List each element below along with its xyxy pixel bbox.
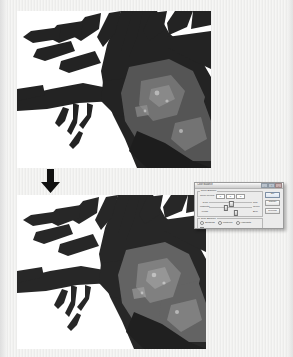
preview-button[interactable]: Preview (265, 208, 280, 214)
cancel-button[interactable]: Cancel (265, 200, 280, 206)
tone-balance-fieldset: Tone Balance Shadows Midtones Highli (197, 218, 263, 229)
color-levels-row: Color Levels: 0 0 0 (200, 194, 260, 199)
dialog-main-panel: Color Balance Color Levels: 0 0 0 Cyan (197, 191, 263, 230)
radio-highlights[interactable]: Highlights (236, 221, 251, 225)
slider-track-yellow-blue (209, 212, 252, 213)
slider-label-yellow: Yellow (200, 211, 208, 213)
radio-shadows[interactable]: Shadows (200, 221, 215, 225)
tone-balance-options: Shadows Midtones Highlights (200, 221, 260, 225)
slider-label-red: Red (253, 202, 260, 204)
window-controls: – □ × (261, 183, 282, 188)
slider-label-cyan: Cyan (200, 202, 208, 204)
radio-dot-midtones (218, 221, 222, 225)
radio-midtones[interactable]: Midtones (218, 221, 233, 225)
slider-track-magenta-green (209, 207, 252, 208)
page-left-edge (0, 0, 7, 357)
radio-dot-shadows (200, 221, 204, 225)
check-mark-icon: ✓ (200, 227, 204, 229)
figure-page: Color Balance – □ × Color Balance Color … (0, 0, 293, 357)
slider-row-yellow-blue: Yellow Blue (200, 210, 260, 215)
color-balance-fieldset: Color Balance Color Levels: 0 0 0 Cyan (197, 191, 263, 217)
before-photo-canvas (17, 11, 211, 168)
color-level-input-3[interactable]: 0 (236, 194, 245, 199)
slider-label-magenta: Magenta (200, 206, 208, 208)
page-right-edge (287, 0, 293, 357)
dialog-actions: OK Cancel Preview (263, 191, 280, 230)
slider-label-blue: Blue (253, 211, 260, 213)
radio-label-shadows: Shadows (205, 222, 215, 224)
checkbox-label-preserve-luminosity: Preserve Luminosity (205, 228, 227, 229)
color-level-input-1[interactable]: 0 (216, 194, 225, 199)
radio-label-highlights: Highlights (241, 222, 252, 224)
slider-label-green: Green (253, 206, 260, 208)
slider-thumb-yellow-blue[interactable] (234, 210, 238, 216)
before-photo (17, 11, 211, 168)
color-levels-label: Color Levels: (200, 195, 215, 198)
color-balance-dialog[interactable]: Color Balance – □ × Color Balance Color … (194, 182, 284, 229)
downward-arrow (41, 169, 60, 193)
close-icon[interactable]: × (275, 183, 282, 188)
color-level-input-2[interactable]: 0 (226, 194, 235, 199)
after-photo-canvas (17, 195, 206, 349)
maximize-icon[interactable]: □ (268, 183, 275, 188)
color-balance-legend: Color Balance (200, 190, 217, 193)
dialog-title: Color Balance (197, 184, 213, 187)
slider-yellow-blue[interactable] (209, 210, 252, 215)
tone-balance-legend: Tone Balance (200, 218, 217, 221)
after-photo (17, 195, 206, 349)
radio-label-midtones: Midtones (223, 222, 233, 224)
minimize-icon[interactable]: – (261, 183, 268, 188)
radio-dot-highlights (236, 221, 240, 225)
ok-button[interactable]: OK (265, 192, 280, 198)
dialog-body: Color Balance Color Levels: 0 0 0 Cyan (195, 189, 283, 229)
checkbox-preserve-luminosity[interactable]: ✓ Preserve Luminosity (200, 227, 260, 229)
